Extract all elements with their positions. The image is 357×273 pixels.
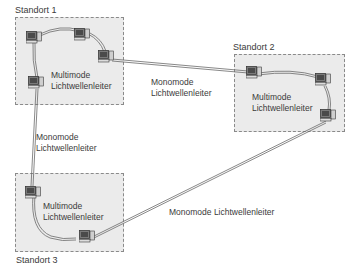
computer-icon [246,66,262,79]
site-1-cable-label: Multimode Lichtwellenleiter [51,70,111,91]
link-1-3-label: Monomode Lichtwellenleiter [36,132,96,153]
site-2-title: Standort 2 [233,42,275,52]
computer-icon [79,230,95,243]
computer-icon [28,76,44,89]
link-3-2-label: Monomode Lichtwellenleiter [169,207,274,218]
site-3-cable-label: Multimode Lichtwellenleiter [43,201,103,222]
site-2-cable-label: Multimode Lichtwellenleiter [252,92,312,113]
computer-icon [98,50,114,63]
computer-icon [320,109,336,122]
computer-icon [26,31,42,44]
link-1-2-label: Monomode Lichtwellenleiter [151,77,211,98]
computer-icon [25,186,41,199]
computer-icon [315,73,331,86]
site-3-title: Standort 3 [16,255,58,265]
network-diagram: Standort 1 Standort 2 Standort 3 Multimo… [0,0,357,273]
computer-icon [74,28,90,41]
site-1-title: Standort 1 [15,5,57,15]
